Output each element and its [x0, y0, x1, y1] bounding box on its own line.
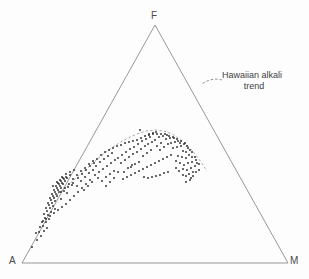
data-point	[128, 141, 130, 143]
data-point	[47, 214, 49, 216]
data-point	[88, 163, 90, 165]
data-point	[51, 202, 53, 204]
data-point	[50, 199, 52, 201]
data-point	[194, 165, 196, 167]
data-point	[103, 158, 105, 160]
data-point	[65, 173, 67, 175]
apex-label-m: M	[290, 255, 299, 266]
data-point	[136, 139, 138, 141]
data-point	[122, 178, 124, 180]
data-point	[177, 155, 179, 157]
data-point	[151, 176, 153, 178]
data-point	[108, 149, 110, 151]
data-point	[46, 227, 48, 229]
data-point	[170, 142, 172, 144]
data-point	[175, 160, 177, 162]
data-point	[149, 136, 151, 138]
data-point	[142, 155, 144, 157]
data-point	[167, 143, 169, 145]
data-point	[63, 190, 65, 192]
data-point	[73, 195, 75, 197]
data-point	[45, 218, 47, 220]
data-point	[84, 167, 86, 169]
ternary-diagram	[0, 0, 309, 279]
data-point	[152, 133, 154, 135]
data-point	[144, 145, 146, 147]
data-point	[151, 141, 153, 143]
data-point	[56, 195, 58, 197]
data-point	[51, 193, 53, 195]
data-point	[158, 160, 160, 162]
data-point	[163, 172, 165, 174]
data-point	[92, 169, 94, 171]
data-point	[142, 168, 144, 170]
data-point	[49, 207, 51, 209]
data-point	[146, 166, 148, 168]
data-point	[186, 169, 188, 171]
data-point	[166, 134, 168, 136]
data-point	[132, 140, 134, 142]
data-point	[109, 181, 111, 183]
data-point	[188, 173, 190, 175]
data-point	[177, 140, 179, 142]
data-point	[143, 176, 145, 178]
data-point	[145, 138, 147, 140]
data-point	[181, 156, 183, 158]
data-point	[125, 151, 127, 153]
data-point	[176, 146, 178, 148]
data-point	[136, 151, 138, 153]
data-point	[185, 151, 187, 153]
data-point	[100, 154, 102, 156]
data-point	[150, 164, 152, 166]
data-point	[148, 133, 150, 135]
data-point	[69, 174, 71, 176]
annotation-line-1: Hawaiian alkali	[222, 70, 308, 81]
data-point	[182, 150, 184, 152]
data-point	[112, 147, 114, 149]
data-point	[176, 138, 178, 140]
data-point	[155, 131, 157, 133]
data-point	[64, 187, 66, 189]
data-point	[53, 197, 55, 199]
data-point	[196, 162, 198, 164]
data-point	[127, 167, 129, 169]
hawaiian-alkali-trend-annotation: Hawaiian alkali trend	[222, 70, 308, 92]
data-point	[77, 177, 79, 179]
data-point	[189, 179, 191, 181]
data-point	[192, 171, 194, 173]
data-point	[52, 195, 54, 197]
data-point	[185, 175, 187, 177]
data-point	[156, 133, 158, 135]
data-point	[60, 191, 62, 193]
data-point	[61, 206, 63, 208]
data-point	[66, 192, 68, 194]
data-point	[160, 142, 162, 144]
data-point	[52, 185, 54, 187]
data-point	[45, 221, 47, 223]
data-point	[147, 143, 149, 145]
data-point	[46, 210, 48, 212]
data-point	[154, 139, 156, 141]
data-point	[109, 173, 111, 175]
annotation-line-2: trend	[222, 81, 308, 92]
data-point	[61, 176, 63, 178]
data-point	[187, 162, 189, 164]
data-point	[105, 176, 107, 178]
data-point	[45, 207, 47, 209]
data-point	[160, 133, 162, 135]
data-point	[85, 169, 87, 171]
data-point	[182, 174, 184, 176]
data-point	[72, 178, 74, 180]
data-point	[150, 149, 152, 151]
data-point	[61, 182, 63, 184]
data-point	[85, 183, 87, 185]
data-point	[174, 141, 176, 143]
data-point	[65, 203, 67, 205]
data-point	[55, 185, 57, 187]
data-point	[42, 220, 44, 222]
data-point	[120, 144, 122, 146]
data-point	[144, 135, 146, 137]
data-point	[56, 181, 58, 183]
data-point	[134, 163, 136, 165]
data-point	[163, 146, 165, 148]
